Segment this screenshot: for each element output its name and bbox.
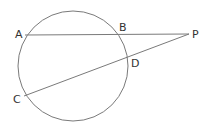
point-label-d: D: [131, 57, 139, 70]
point-label-c: C: [13, 93, 21, 106]
circle: [18, 11, 128, 121]
point-label-a: A: [15, 28, 23, 41]
secant-c-p: [24, 34, 189, 96]
secant-a-p: [25, 34, 189, 35]
point-label-b: B: [119, 21, 127, 34]
point-label-p: P: [192, 28, 199, 41]
secant-diagram: A B C D P: [0, 0, 206, 123]
